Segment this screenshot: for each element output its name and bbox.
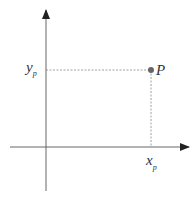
coordinate-diagram: P yp xp bbox=[0, 0, 193, 209]
y-p-label: yp bbox=[24, 59, 37, 78]
point-p-marker bbox=[148, 67, 154, 73]
point-p-label: P bbox=[155, 62, 165, 78]
x-p-label: xp bbox=[145, 152, 157, 172]
